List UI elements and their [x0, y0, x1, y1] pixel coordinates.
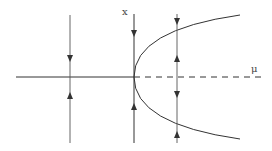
- vertical-axis-label: x: [122, 6, 128, 17]
- arrow-up-icon: [131, 103, 137, 110]
- horizontal-axis-label: μ: [251, 63, 258, 74]
- arrow-up-icon: [174, 55, 180, 62]
- arrow-up-icon: [67, 92, 73, 99]
- flow-line-negative-mu: [67, 15, 73, 143]
- arrow-down-icon: [67, 55, 73, 62]
- arrow-down-icon: [131, 30, 137, 37]
- arrow-down-icon: [174, 18, 180, 25]
- arrow-up-icon: [174, 131, 180, 138]
- flow-line-positive-mu: [174, 14, 180, 143]
- bifurcation-diagram: x μ: [0, 0, 272, 151]
- arrow-down-icon: [174, 91, 180, 98]
